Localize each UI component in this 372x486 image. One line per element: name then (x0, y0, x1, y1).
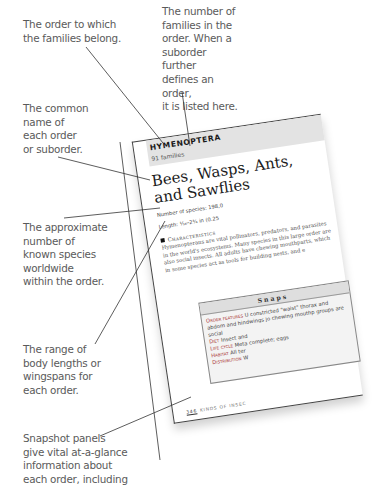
annotation-species: The approximate number of known species … (23, 221, 108, 289)
length-range: Length: ¹⁄₁₆–2¾ in (0.25 (158, 215, 219, 230)
annotation-range: The range of body lengths or wingspans f… (23, 343, 101, 397)
bullet-square-icon (160, 238, 165, 243)
characteristics-text: Hymenopterans are vital pollinators, pre… (161, 220, 331, 273)
page-footer: 346KINDS OF INSEC (186, 401, 247, 415)
snapshot-panel: Snaps Order features U constricted "wais… (198, 280, 360, 384)
order-name: HYMENOPTERA (149, 133, 221, 152)
footer-section: KINDS OF INSEC (200, 401, 247, 413)
snapshot-value: W (243, 354, 249, 361)
families-count: 91 families (151, 150, 185, 162)
annotation-snapshot: Snapshot panels give vital at-a-glance i… (23, 432, 128, 486)
book-page: HYMENOPTERA 91 families Bees, Wasps, Ant… (132, 114, 363, 424)
annotation-families: The number of families in the order. Whe… (162, 5, 241, 114)
page-number: 346 (186, 408, 197, 415)
annotation-order: The order to which the families belong. (23, 18, 121, 45)
book-page-sample: HYMENOPTERA 91 families Bees, Wasps, Ant… (130, 100, 372, 426)
annotation-common-name: The common name of each order or suborde… (23, 102, 88, 156)
